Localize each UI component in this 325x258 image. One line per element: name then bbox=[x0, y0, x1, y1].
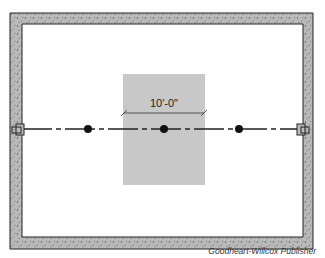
dimension-label: 10′-0″ bbox=[123, 97, 205, 109]
column-center bbox=[160, 125, 168, 133]
floor-plan-diagram bbox=[0, 0, 325, 258]
column-right bbox=[235, 125, 243, 133]
publisher-credit: Goodheart-Willcox Publisher bbox=[208, 246, 316, 256]
column-left bbox=[84, 125, 92, 133]
